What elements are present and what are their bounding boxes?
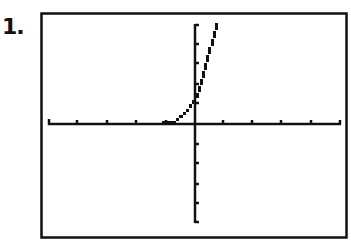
calculator-graph [0, 0, 351, 242]
exponential-curve [162, 23, 218, 124]
